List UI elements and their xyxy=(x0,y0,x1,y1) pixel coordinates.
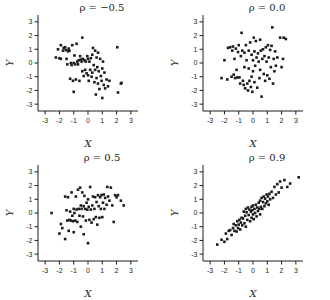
x-tick-label: 1 xyxy=(265,117,269,124)
data-point xyxy=(89,186,92,189)
data-point xyxy=(74,63,77,66)
data-point xyxy=(60,44,63,47)
data-point xyxy=(280,66,283,69)
data-point xyxy=(87,58,90,61)
data-point xyxy=(220,238,223,241)
data-point xyxy=(67,196,70,199)
y-tick-label: -2 xyxy=(26,87,32,94)
data-point xyxy=(252,36,255,39)
data-point xyxy=(97,70,100,73)
panel-svg: 3210-1-2-3-3-2-10123XYρ = 0.0 xyxy=(165,0,330,150)
data-point xyxy=(276,183,279,186)
scatter-panel-rho-neg05: 3210-1-2-3-3-2-10123XYρ = −0.5 xyxy=(0,0,165,150)
y-axis-label: Y xyxy=(4,58,15,66)
y-tick-label: -3 xyxy=(191,101,197,108)
data-point xyxy=(77,63,80,66)
data-point xyxy=(85,201,88,204)
data-point xyxy=(242,217,245,220)
x-axis-label: X xyxy=(83,288,92,299)
data-point xyxy=(110,186,113,189)
data-point xyxy=(78,214,81,217)
data-point xyxy=(72,208,75,211)
y-tick-label: 1 xyxy=(194,196,198,203)
data-point xyxy=(243,51,246,54)
data-point xyxy=(92,47,95,50)
data-point xyxy=(256,86,259,89)
data-point xyxy=(240,32,243,35)
data-point xyxy=(100,75,103,78)
data-point xyxy=(108,199,111,202)
y-tick-label: 0 xyxy=(194,209,198,216)
data-point xyxy=(242,210,245,213)
x-tick-label: 0 xyxy=(86,117,90,124)
data-point xyxy=(102,201,105,204)
data-point xyxy=(106,186,109,189)
data-point xyxy=(97,51,100,54)
data-point xyxy=(102,84,105,87)
x-tick-label: 0 xyxy=(86,267,90,274)
data-point xyxy=(79,55,82,58)
data-point xyxy=(75,43,78,46)
x-tick-label: -1 xyxy=(236,117,242,124)
panel-title: ρ = −0.5 xyxy=(80,2,125,13)
data-point xyxy=(87,198,90,201)
data-point xyxy=(77,208,80,211)
data-point xyxy=(95,56,98,59)
data-points xyxy=(50,186,125,245)
data-point xyxy=(58,232,61,235)
data-point xyxy=(255,203,258,206)
data-points xyxy=(55,36,123,99)
data-point xyxy=(95,201,98,204)
data-point xyxy=(297,176,300,179)
data-point xyxy=(60,58,63,61)
data-point xyxy=(240,55,243,58)
x-tick-label: 3 xyxy=(129,117,133,124)
data-point xyxy=(80,60,83,63)
data-point xyxy=(245,211,248,214)
scatter-panel-rho-00: 3210-1-2-3-3-2-10123XYρ = 0.0 xyxy=(165,0,330,150)
data-point xyxy=(272,82,275,85)
data-point xyxy=(107,85,110,88)
x-tick-label: 2 xyxy=(115,267,119,274)
data-point xyxy=(90,221,93,224)
data-point xyxy=(93,81,96,84)
data-point xyxy=(60,223,63,226)
data-point xyxy=(62,49,65,52)
data-point xyxy=(267,44,270,47)
y-tick-label: -1 xyxy=(191,223,197,230)
x-axis-label: X xyxy=(248,288,257,299)
data-point xyxy=(57,48,60,51)
data-point xyxy=(230,234,233,237)
data-point xyxy=(65,209,68,212)
data-point xyxy=(267,195,270,198)
data-point xyxy=(75,195,78,198)
data-point xyxy=(97,205,100,208)
data-point xyxy=(271,26,274,29)
data-point xyxy=(92,64,95,67)
data-point xyxy=(275,193,278,196)
y-tick-label: -3 xyxy=(26,101,32,108)
data-point xyxy=(91,71,94,74)
data-point xyxy=(247,89,250,92)
data-point xyxy=(280,186,283,189)
x-tick-label: 2 xyxy=(280,267,284,274)
data-point xyxy=(252,59,255,62)
data-point xyxy=(242,80,245,83)
data-point xyxy=(98,217,101,220)
data-point xyxy=(94,69,97,72)
data-point xyxy=(101,216,104,219)
x-tick-label: -2 xyxy=(56,117,62,124)
data-point xyxy=(254,212,257,215)
data-point xyxy=(220,77,223,80)
data-point xyxy=(81,36,84,39)
y-tick-label: -1 xyxy=(191,73,197,80)
data-point xyxy=(95,216,98,219)
data-point xyxy=(69,77,72,80)
x-tick-label: -2 xyxy=(221,117,227,124)
data-point xyxy=(101,67,104,70)
data-point xyxy=(94,196,97,199)
data-point xyxy=(104,87,107,90)
data-point xyxy=(87,242,90,245)
data-point xyxy=(226,238,229,241)
data-point xyxy=(91,204,94,207)
